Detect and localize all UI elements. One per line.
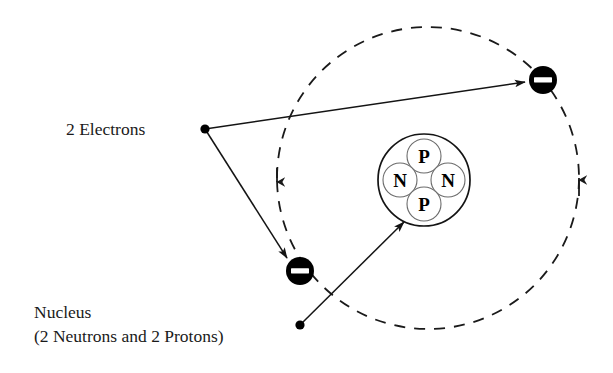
nucleus-pointer-line	[300, 222, 404, 325]
electron-minus-sign	[534, 77, 552, 82]
electrons-pointer-line-upper	[205, 82, 525, 129]
neutron-label: N	[393, 170, 407, 191]
nucleus-label-line1: Nucleus	[34, 302, 92, 322]
proton-label: P	[418, 194, 430, 215]
electron-upper-right	[529, 66, 557, 94]
nucleus-label-line2: (2 Neutrons and 2 Protons)	[34, 326, 224, 346]
atom-diagram: P N N P	[0, 0, 613, 373]
electron-minus-sign	[291, 268, 309, 273]
electrons-pointer-dot	[200, 124, 209, 133]
nucleus-group: P N N P	[378, 134, 470, 226]
nucleus-pointer-dot	[295, 320, 304, 329]
nucleon-proton-bottom: P	[407, 187, 441, 221]
electron-lower-left	[286, 257, 314, 285]
neutron-label: N	[441, 170, 455, 191]
electrons-label: 2 Electrons	[66, 119, 145, 139]
proton-label: P	[418, 146, 430, 167]
electrons-pointer-group	[200, 82, 525, 258]
atom-diagram-canvas: P N N P	[0, 0, 613, 373]
electrons-pointer-line-lower	[205, 129, 287, 258]
